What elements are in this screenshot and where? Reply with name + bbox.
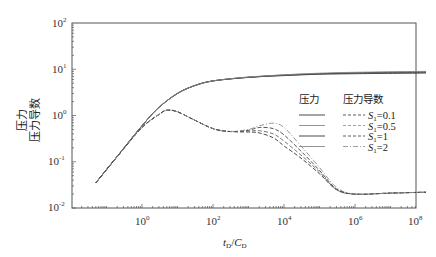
- x-tick-label: 108: [408, 214, 423, 227]
- x-tick-labels: 100 102 104 106 108: [135, 214, 423, 227]
- legend-entry-label: S1=2: [368, 142, 388, 155]
- y-axis-title-line1: 压力: [16, 109, 29, 131]
- y-tick-label: 102: [52, 16, 67, 29]
- minor-ticks: [72, 25, 415, 208]
- y-tick-label: 100: [52, 108, 67, 121]
- major-ticks: [72, 69, 355, 208]
- y-axis-title: 压力 压力导数: [16, 98, 42, 142]
- x-tick-label: 102: [206, 214, 221, 227]
- x-tick-label: 104: [277, 214, 292, 227]
- x-axis-title: tD/CD: [223, 236, 247, 250]
- legend-header-derivative: 压力导数: [343, 93, 384, 105]
- y-tick-label: 10-2: [48, 200, 65, 213]
- x-tick-label: 106: [348, 214, 363, 227]
- x-tick-label: 100: [135, 214, 150, 227]
- legend-header-pressure: 压力: [299, 93, 319, 105]
- legend: 压力 压力导数 S1=0.1S1=0.5S1=1S1=2: [299, 93, 396, 155]
- y-tick-label: 10-1: [48, 154, 65, 167]
- y-axis-title-line2: 压力导数: [29, 98, 42, 142]
- plot-frame: [72, 23, 416, 208]
- y-tick-labels: 102 101 100 10-1 10-2: [48, 16, 67, 213]
- y-tick-label: 101: [52, 62, 67, 75]
- chart: 102 101 100 10-1 10-2 100 102 104 106 10…: [0, 0, 436, 257]
